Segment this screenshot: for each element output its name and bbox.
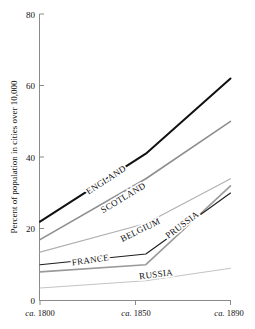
y-tick-label: 80 — [26, 10, 36, 20]
series-label-england: ENGLAND — [84, 163, 128, 196]
series-labels: ENGLAND SCOTLAND BELGIUM PRUSSIA FRANCE … — [71, 163, 201, 281]
y-tick-labels: 80 60 40 20 0 — [26, 10, 36, 307]
line-chart-urbanization: Percent of population in cities over 10,… — [0, 0, 255, 329]
series-lines — [40, 78, 231, 288]
chart-canvas: Percent of population in cities over 10,… — [0, 0, 255, 329]
x-tick-label: ca. 1850 — [121, 308, 150, 318]
series-line-scotland — [40, 121, 231, 239]
y-tick-label: 40 — [26, 153, 36, 163]
series-line-england — [40, 78, 231, 221]
series-line-russia — [40, 268, 231, 288]
x-tick-labels: ca. 1800 ca. 1850 ca. 1890 — [25, 308, 243, 318]
y-tick-marks — [40, 14, 45, 301]
y-tick-label: 60 — [26, 81, 36, 91]
y-tick-label: 20 — [26, 224, 36, 234]
x-tick-label: ca. 1890 — [214, 308, 243, 318]
x-tick-label: ca. 1800 — [25, 308, 54, 318]
x-tick-marks — [40, 301, 231, 306]
series-label-prussia: PRUSSIA — [163, 209, 200, 241]
series-label-belgium: BELGIUM — [119, 216, 162, 244]
y-axis-title: Percent of population in cities over 10,… — [9, 80, 19, 234]
y-tick-label: 0 — [31, 296, 36, 306]
series-label-france: FRANCE — [71, 252, 110, 267]
series-label-russia: RUSSIA — [139, 267, 174, 281]
